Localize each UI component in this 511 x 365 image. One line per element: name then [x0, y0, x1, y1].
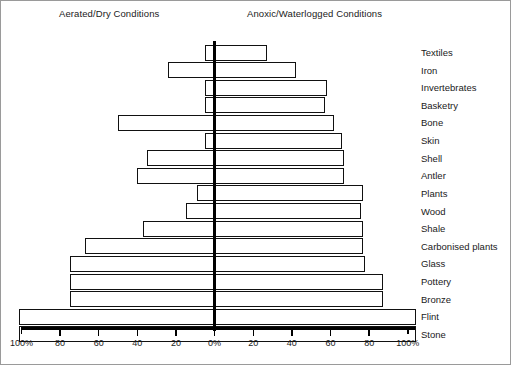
category-label: Invertebrates — [421, 83, 476, 93]
category-label: Skin — [421, 136, 439, 146]
category-label: Bone — [421, 118, 443, 128]
x-tick-label: 20 — [171, 338, 181, 348]
x-tick — [175, 330, 176, 336]
bar-antler — [137, 168, 344, 184]
category-label: Shale — [421, 224, 445, 234]
category-label: Wood — [421, 207, 446, 217]
x-tick — [21, 327, 23, 334]
diverging-bar-chart: TextilesIronInvertebratesBasketryBoneSki… — [0, 0, 511, 365]
zero-axis-line — [213, 41, 216, 331]
x-tick — [330, 330, 331, 336]
bar-iron — [168, 62, 296, 78]
category-label: Glass — [421, 259, 445, 269]
bar-bone — [118, 115, 334, 131]
category-label: Antler — [421, 171, 446, 181]
category-label: Shell — [421, 154, 442, 164]
x-tick-label: 100% — [10, 338, 33, 348]
category-label: Plants — [421, 189, 447, 199]
category-label: Iron — [421, 66, 437, 76]
x-tick — [214, 330, 215, 336]
bar-basketry — [205, 97, 325, 113]
x-axis-line — [21, 327, 415, 330]
category-label: Flint — [421, 312, 439, 322]
category-label: Pottery — [421, 277, 451, 287]
bar-pottery — [70, 274, 383, 290]
bar-skin — [205, 133, 342, 149]
x-tick — [137, 330, 138, 336]
bar-plants — [197, 185, 363, 201]
x-tick-label: 80 — [364, 338, 374, 348]
bar-shale — [143, 221, 363, 237]
category-label: Carbonised plants — [421, 242, 498, 252]
x-tick-label: 60 — [94, 338, 104, 348]
x-tick-label: 60 — [326, 338, 336, 348]
x-tick-label: 40 — [287, 338, 297, 348]
bar-invertebrates — [205, 80, 327, 96]
bar-carbonised-plants — [85, 238, 363, 254]
bar-flint — [19, 309, 415, 325]
x-tick — [291, 330, 292, 336]
bar-wood — [186, 203, 362, 219]
x-tick — [98, 330, 99, 336]
x-tick — [368, 330, 369, 336]
x-tick-label: 40 — [132, 338, 142, 348]
bar-bronze — [70, 291, 383, 307]
x-tick-label: 100% — [396, 338, 419, 348]
x-tick — [253, 330, 254, 336]
x-tick — [407, 327, 409, 334]
category-label: Textiles — [421, 48, 453, 58]
bar-shell — [147, 150, 344, 166]
category-label: Basketry — [421, 101, 458, 111]
x-tick-label: 0% — [208, 338, 221, 348]
category-label: Bronze — [421, 295, 451, 305]
x-tick — [59, 330, 60, 336]
x-tick-label: 80 — [55, 338, 65, 348]
x-tick-label: 20 — [248, 338, 258, 348]
bar-glass — [70, 256, 366, 272]
category-label: Stone — [421, 330, 446, 340]
